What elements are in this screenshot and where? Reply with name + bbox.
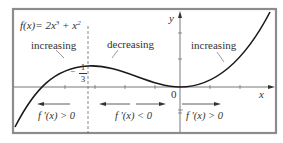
arrow-right-icon [159, 102, 166, 106]
arrow-left-icon [99, 102, 106, 106]
arrow-left-icon [37, 102, 44, 106]
origin-label: 0 [171, 89, 177, 100]
region-label-decreasing: decreasing [107, 39, 154, 50]
region-label-increasing-left: increasing [31, 40, 76, 51]
critical-point-fraction: 1 3 [79, 63, 87, 84]
pointer-line [112, 50, 118, 58]
critical-point-label: − [70, 67, 75, 76]
derivative-label-middle: f '(x) < 0 [115, 111, 152, 122]
pointer-line [217, 52, 224, 62]
derivative-label-left: f '(x) > 0 [38, 111, 75, 122]
region-label-increasing-right: increasing [191, 40, 236, 51]
function-formula: f(x)= 2x3 + x2 [20, 20, 81, 31]
pointer-line [56, 50, 64, 58]
y-axis-label: y [169, 13, 174, 24]
x-axis-arrow-icon [268, 85, 275, 89]
derivative-label-right: f '(x) > 0 [186, 111, 223, 122]
arrow-right-icon [214, 102, 221, 106]
x-axis-label: x [259, 89, 264, 100]
y-axis-arrow-icon [178, 11, 182, 18]
